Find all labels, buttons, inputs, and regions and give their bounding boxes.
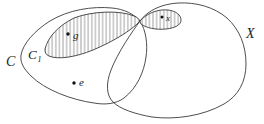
point-x-dot <box>161 16 164 19</box>
set-c1-label: C <box>28 47 37 62</box>
point-x-label: x <box>165 13 170 23</box>
point-e-dot <box>72 81 75 84</box>
region-c1-small-lobe <box>140 10 181 29</box>
point-g-dot <box>66 32 69 35</box>
region-c1-main-lobe <box>45 12 140 58</box>
set-diagram: C C 1 X g e x <box>0 0 264 124</box>
set-c1-label-subscript: 1 <box>38 55 42 64</box>
point-e-label: e <box>79 76 84 88</box>
venn-diagram-canvas: C C 1 X g e x <box>0 0 264 124</box>
point-g-label: g <box>73 29 79 41</box>
set-x-label: X <box>245 26 255 41</box>
set-c-label: C <box>6 54 16 69</box>
